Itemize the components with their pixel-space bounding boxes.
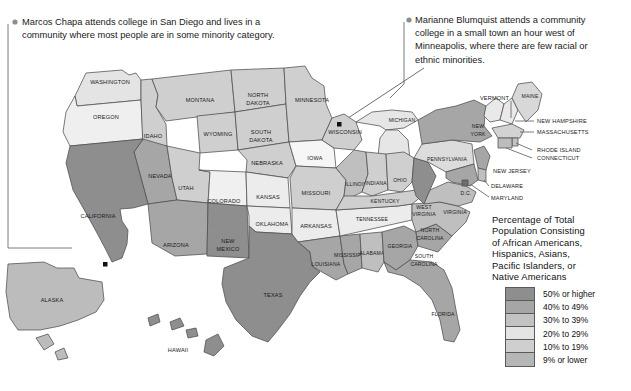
state-label-west-virginia-1: WEST [416, 204, 431, 210]
state-label-south-carolina-1: SOUTH [415, 253, 434, 259]
legend-label: 40% to 49% [543, 302, 588, 312]
state-florida[interactable]: FLORIDA [384, 260, 460, 342]
state-label-new-mexico-2: MEXICO [217, 246, 240, 252]
state-label-louisiana: LOUISIANA [312, 261, 341, 267]
legend-row[interactable]: 30% to 39% [505, 314, 628, 327]
state-label-connecticut: CONNECTICUT [537, 155, 580, 161]
state-label-new-mexico-1: NEW [221, 238, 235, 244]
state-label-indiana: INDIANA [365, 180, 387, 186]
state-label-north-carolina-1: NORTH [421, 227, 440, 233]
state-label-minnesota: MINNESOTA [295, 97, 329, 103]
leader-line-right [390, 22, 404, 98]
state-label-nevada: NEVADA [148, 173, 172, 179]
leader-line-left [8, 24, 72, 248]
state-label-west-virginia-2: VIRGINIA [412, 211, 436, 217]
state-label-iowa: IOWA [307, 155, 322, 161]
city-dot-san-diego [103, 262, 108, 267]
state-kansas[interactable]: KANSAS [246, 172, 290, 208]
state-label-north-dakota-2: DAKOTA [246, 100, 270, 106]
legend-swatch [505, 301, 535, 314]
state-label-north-carolina-2: CAROLINA [416, 235, 444, 241]
state-label-massachusetts: MASSACHUSETTS [537, 129, 589, 135]
state-ohio[interactable]: OHIO [386, 152, 414, 192]
state-label-new-hampshire: NEW HAMPSHIRE [537, 118, 587, 124]
state-label-maine: MAINE [522, 93, 539, 99]
state-new-mexico[interactable]: NEW MEXICO [207, 203, 249, 258]
legend-swatch [505, 327, 535, 340]
state-label-idaho: IDAHO [144, 133, 163, 139]
state-label-ohio: OHIO [393, 177, 407, 183]
state-label-new-york-2: YORK [470, 131, 485, 137]
state-label-georgia: GEORGIA [388, 243, 413, 249]
state-label-florida: FLORIDA [431, 311, 455, 317]
state-label-alaska: ALASKA [41, 297, 64, 303]
state-rhode-island[interactable] [512, 138, 518, 146]
legend-row[interactable]: 20% to 29% [505, 327, 628, 340]
state-label-kansas: KANSAS [256, 194, 280, 200]
state-label-pennsylvania: PENNSYLVANIA [427, 156, 468, 162]
state-alaska[interactable]: ALASKA [6, 262, 104, 360]
state-label-california: CALIFORNIA [80, 213, 115, 219]
state-label-arizona: ARIZONA [163, 242, 189, 248]
state-oregon[interactable]: OREGON [63, 96, 143, 146]
state-label-south-dakota-2: DAKOTA [249, 137, 273, 143]
state-label-virginia: VIRGINIA [443, 209, 467, 215]
state-label-maryland: MARYLAND [491, 195, 523, 201]
state-label-south-dakota-1: SOUTH [251, 129, 271, 135]
state-label-nebraska: NEBRASKA [251, 160, 283, 166]
state-label-kentucky: KENTUCKY [371, 198, 400, 204]
state-massachusetts[interactable] [492, 124, 524, 138]
state-label-dc: D.C. [461, 190, 472, 196]
legend-swatch [505, 287, 535, 300]
legend-label: 10% to 19% [543, 342, 588, 352]
legend-label: 9% or lower [543, 355, 587, 365]
legend-label: 20% to 29% [543, 329, 588, 339]
state-label-delaware: DELAWARE [491, 183, 523, 189]
state-label-vermont: VERMONT [480, 95, 509, 101]
state-label-utah: UTAH [178, 185, 193, 191]
state-new-jersey[interactable] [474, 146, 490, 170]
state-label-montana: MONTANA [186, 97, 215, 103]
legend-label: 50% or higher [543, 289, 595, 299]
legend-label: 30% to 39% [543, 315, 588, 325]
state-minnesota[interactable]: MINNESOTA [284, 66, 332, 142]
state-california[interactable]: CALIFORNIA [66, 139, 148, 262]
state-label-wisconsin: WISCONSIN [328, 129, 362, 135]
state-label-new-york-1: NEW [472, 123, 484, 129]
legend-swatch [505, 340, 535, 353]
state-hawaii[interactable]: HAWAII [148, 314, 224, 356]
state-label-texas: TEXAS [263, 292, 282, 298]
legend-row[interactable]: 10% to 19% [505, 340, 628, 353]
state-label-hawaii: HAWAII [168, 347, 189, 353]
state-missouri[interactable]: MISSOURI [290, 166, 346, 210]
state-label-north-dakota-1: NORTH [248, 92, 269, 98]
state-label-oklahoma: OKLAHOMA [256, 221, 289, 227]
city-dot-minneapolis [337, 122, 342, 127]
legend-swatch [505, 353, 535, 366]
state-label-tennessee: TENNESSEE [356, 216, 389, 222]
state-label-missouri: MISSOURI [302, 190, 331, 196]
state-label-arkansas: ARKANSAS [300, 223, 332, 229]
state-label-alabama: ALABAMA [359, 250, 385, 256]
state-label-oregon: OREGON [93, 114, 119, 120]
map-figure: Marcos Chapa attends college in San Dieg… [0, 0, 631, 391]
state-label-wyoming: WYOMING [203, 131, 232, 137]
state-alabama[interactable]: ALABAMA [359, 232, 385, 272]
legend-row[interactable]: 50% or higher [505, 287, 628, 300]
state-wyoming[interactable]: WYOMING [197, 112, 238, 153]
state-delaware[interactable] [478, 168, 486, 182]
legend-row[interactable]: 9% or lower [505, 353, 628, 366]
state-arizona[interactable]: ARIZONA [148, 200, 208, 256]
state-new-york[interactable]: NEW YORK [418, 100, 492, 144]
map-legend: Percentage of Total Population Consistin… [492, 214, 628, 367]
state-label-washington: WASHINGTON [90, 79, 130, 85]
state-label-michigan: MICHIGAN [389, 117, 416, 123]
state-maine[interactable]: MAINE [512, 82, 542, 122]
legend-row[interactable]: 40% to 49% [505, 301, 628, 314]
legend-title: Percentage of Total Population Consistin… [492, 214, 628, 282]
state-label-south-carolina-2: CAROLINA [410, 261, 438, 267]
state-connecticut[interactable] [498, 138, 512, 148]
state-label-rhode-island: RHODE ISLAND [537, 147, 581, 153]
state-label-new-jersey: NEW JERSEY [493, 168, 531, 174]
legend-swatch [505, 314, 535, 327]
